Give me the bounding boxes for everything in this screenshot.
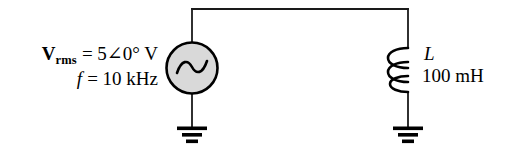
ground-bar-2 [182, 133, 202, 137]
ground-bar-1 [393, 127, 423, 131]
ground-bar-3 [186, 140, 198, 144]
ground-inductor [393, 127, 423, 144]
ground-bar-3 [402, 140, 414, 144]
ac-voltage-source [167, 43, 218, 94]
wire-group [192, 9, 408, 128]
ground-bar-1 [177, 127, 207, 131]
circuit-schematic-canvas [0, 0, 519, 162]
circuit-diagram: Vrms= 5∠0° V f= 10 kHz L 100 mH [0, 0, 519, 162]
ground-source [177, 127, 207, 144]
ground-bar-2 [398, 133, 418, 137]
inductor-coil-icon [388, 48, 408, 92]
